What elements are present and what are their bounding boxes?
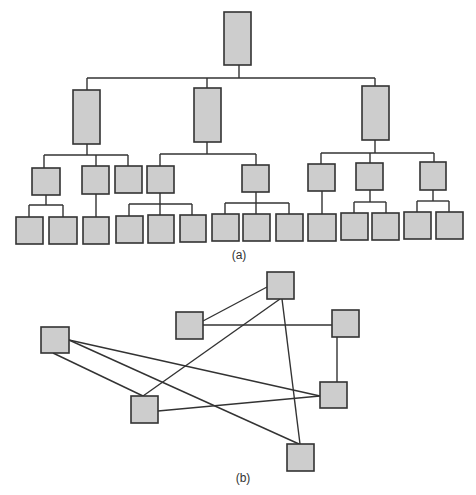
tree-node-L1-left: [73, 90, 100, 144]
tree-node-L2-h: [420, 162, 446, 190]
tree-node-L3-9: [276, 214, 303, 241]
graph-node-N2: [176, 312, 203, 339]
graph-node-N6: [131, 396, 158, 423]
tree-node-L3-5: [148, 215, 174, 243]
tree-node-L3-6: [180, 215, 206, 242]
tree-node-L2-g: [356, 163, 383, 190]
tree-node-L3-11: [341, 213, 368, 240]
tree-boxes: [16, 12, 463, 244]
tree-node-L2-e: [242, 165, 269, 192]
graph-node-N3: [332, 310, 359, 337]
tree-node-L3-12: [372, 213, 399, 240]
graph-edge-N2-N1: [203, 287, 267, 321]
tree-node-L2-d: [147, 166, 174, 193]
tree-node-L2-c: [115, 166, 142, 193]
caption-figure-b: (b): [236, 471, 251, 485]
tree-node-L1-mid: [194, 88, 221, 142]
tree-node-L1-right: [362, 86, 389, 140]
tree-node-L3-13: [404, 212, 431, 239]
tree-node-root: [224, 12, 251, 65]
tree-node-L3-3: [83, 217, 109, 244]
caption-figure-a: (a): [232, 248, 247, 262]
tree-node-L3-4: [116, 216, 143, 243]
graph-edge-N4-N5: [69, 340, 320, 396]
graph-node-N4: [41, 327, 69, 353]
tree-node-L3-1: [16, 217, 43, 244]
tree-node-L3-7: [212, 214, 239, 241]
tree-node-L3-10: [308, 214, 336, 241]
tree-node-L2-f: [308, 164, 335, 191]
tree-node-L2-b: [82, 166, 109, 194]
graph-edge-N1-N6: [143, 299, 280, 396]
tree-node-L3-14: [436, 212, 463, 239]
graph-edge-N1-N7: [282, 299, 300, 444]
graph-node-N7: [287, 444, 314, 471]
graph-node-N5: [320, 382, 347, 408]
graph-nodes: [41, 272, 359, 471]
graph-edge-N4-N6: [53, 353, 143, 396]
tree-node-L2-a: [32, 168, 60, 195]
graph-node-N1: [267, 272, 294, 299]
graph-edges: [53, 287, 337, 444]
graph-edge-N4-N7: [69, 340, 299, 444]
tree-node-L3-8: [243, 214, 270, 241]
tree-node-L3-2: [49, 217, 77, 244]
